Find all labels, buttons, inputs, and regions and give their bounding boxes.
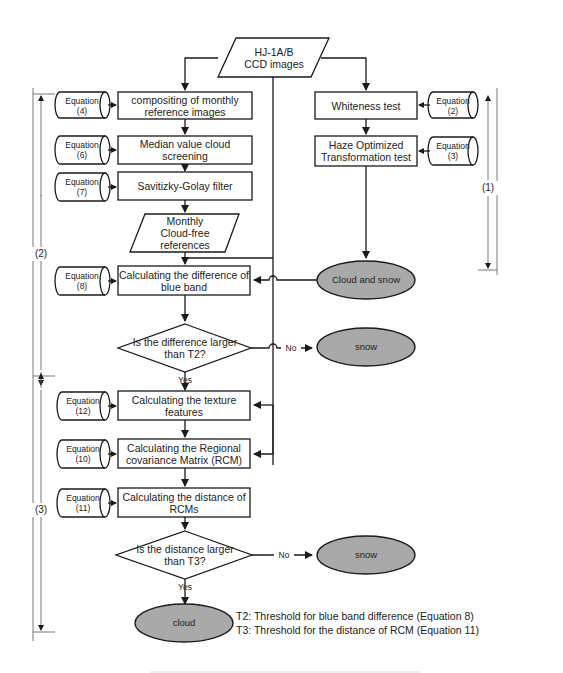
terminal-snow-2: snow	[317, 538, 415, 572]
equation-number: (7)	[77, 187, 87, 197]
decision-t2-no: No	[281, 342, 301, 354]
references-line2: Cloud-free	[160, 227, 209, 239]
bracket-2-text: (2)	[35, 248, 47, 260]
step-distance: Calculating the distance of RCMs	[118, 488, 250, 517]
decision-t2: Is the difference larger than T2?	[128, 334, 242, 362]
input-line2: CCD images	[244, 58, 304, 70]
rcm-line1: Calculating the Regional	[127, 442, 241, 454]
decision-t2-yes: Yes	[175, 374, 195, 386]
texture-line1: Calculating the texture	[132, 394, 236, 406]
step-hot: Haze Optimized Transformation test	[315, 136, 417, 166]
flowchart-canvas: HJ-1A/B CCD images compositing of monthl…	[0, 0, 563, 673]
note-t2: T2: Threshold for blue band difference (…	[236, 610, 474, 623]
references-line1: Monthly	[167, 215, 204, 227]
equation-label: Equation	[66, 444, 100, 454]
blue-band-line2: blue band	[161, 281, 207, 293]
texture-line2: features	[165, 406, 203, 418]
equation-number: (2)	[448, 106, 458, 116]
input-line1: HJ-1A/B	[254, 46, 293, 58]
equation-label: Equation	[436, 96, 470, 106]
cloud-and-snow-label: Cloud and snow	[332, 274, 400, 286]
cloud-label: cloud	[173, 617, 196, 629]
step-blue-band: Calculating the difference of blue band	[118, 266, 250, 295]
step-hot-line1: Haze Optimized	[329, 139, 404, 151]
equation-3: Equation(3)	[430, 137, 476, 165]
decision-t3-no: No	[274, 549, 294, 561]
equation-label: Equation	[65, 140, 99, 150]
equation-label: Equation	[65, 177, 99, 187]
decision-t2-line2: than T2?	[164, 348, 205, 360]
equation-label: Equation	[65, 271, 99, 281]
distance-line1: Calculating the distance of	[122, 491, 245, 503]
step-hot-line2: Transformation test	[321, 151, 411, 163]
step-texture: Calculating the texture features	[118, 391, 250, 420]
decision-t3: Is the distance larger than T3?	[128, 541, 242, 569]
input-node: HJ-1A/B CCD images	[228, 40, 320, 76]
step-compositing: compositing of monthly reference images	[120, 92, 250, 119]
references-line3: references	[160, 239, 210, 251]
equation-8: Equation(8)	[58, 267, 106, 295]
equation-label: Equation	[66, 396, 100, 406]
rcm-line2: covariance Matrix (RCM)	[126, 454, 242, 466]
equation-number: (4)	[77, 106, 87, 116]
decision-t2-line1: Is the difference larger	[133, 336, 237, 348]
no-label: No	[286, 342, 297, 354]
step-median-label: Median value cloud screening	[118, 138, 252, 162]
equation-number: (6)	[77, 150, 87, 160]
terminal-cloud-and-snow: Cloud and snow	[317, 262, 415, 298]
decision-t3-line2: than T3?	[164, 555, 205, 567]
no-label: No	[279, 549, 290, 561]
decision-t3-line1: Is the distance larger	[136, 543, 233, 555]
equation-number: (12)	[75, 406, 90, 416]
equation-label: Equation	[436, 141, 470, 151]
equation-4: Equation(4)	[58, 92, 106, 119]
step-savitzky: Savitizky-Golay filter	[118, 172, 252, 200]
snow1-label: snow	[355, 341, 377, 353]
references-node: Monthly Cloud-free references	[138, 214, 232, 252]
equation-number: (3)	[448, 151, 458, 161]
bracket-1-text: (1)	[482, 182, 494, 194]
step-compositing-label: compositing of monthly reference images	[120, 94, 250, 118]
bracket-label-2: (2)	[30, 247, 52, 261]
blue-band-line1: Calculating the difference of	[119, 269, 249, 281]
step-whiteness: Whiteness test	[315, 92, 417, 119]
step-median: Median value cloud screening	[118, 136, 252, 164]
equation-11: Equation(11)	[60, 489, 106, 517]
yes-label: Yes	[178, 374, 192, 386]
bracket-label-1: (1)	[477, 181, 499, 195]
equation-number: (10)	[75, 454, 90, 464]
terminal-snow-1: snow	[317, 330, 415, 364]
step-whiteness-label: Whiteness test	[332, 100, 401, 112]
equation-label: Equation	[66, 493, 100, 503]
yes-label: Yes	[178, 581, 192, 593]
equation-12: Equation(12)	[60, 392, 106, 420]
equation-2: Equation(2)	[430, 92, 476, 119]
bracket-3-text: (3)	[35, 504, 47, 516]
step-rcm: Calculating the Regional covariance Matr…	[118, 439, 250, 468]
decision-t3-yes: Yes	[175, 581, 195, 593]
equation-7: Equation(7)	[58, 173, 106, 201]
equation-label: Equation	[65, 96, 99, 106]
note-t3: T3: Threshold for the distance of RCM (E…	[236, 624, 479, 637]
terminal-cloud: cloud	[135, 606, 233, 640]
bracket-label-3: (3)	[30, 503, 52, 517]
equation-6: Equation(6)	[58, 136, 106, 164]
step-savitzky-label: Savitizky-Golay filter	[137, 180, 232, 192]
equation-number: (11)	[76, 503, 91, 513]
snow2-label: snow	[355, 549, 377, 561]
equation-10: Equation(10)	[60, 440, 106, 468]
distance-line2: RCMs	[169, 503, 198, 515]
equation-number: (8)	[77, 281, 87, 291]
